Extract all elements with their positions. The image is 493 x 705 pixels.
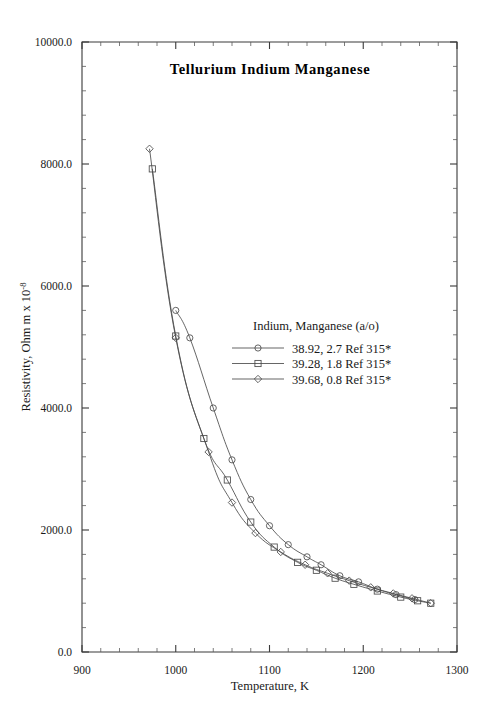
y-axis-title-exponent: -8 <box>18 283 28 290</box>
y-tick-label: 2000.0 <box>40 524 72 536</box>
x-tick-label: 1200 <box>352 664 375 676</box>
y-tick-label: 4000.0 <box>40 402 72 414</box>
chart-title: Tellurium Indium Manganese <box>170 61 370 77</box>
legend-label: 38.92, 2.7 Ref 315* <box>292 342 391 356</box>
plot-background <box>0 0 493 705</box>
y-axis-title-main: Resistivity, Ohm m x 10 <box>19 290 33 412</box>
legend-label: 39.68, 0.8 Ref 315* <box>292 373 391 387</box>
legend-heading: Indium, Manganese (a/o) <box>253 319 379 333</box>
resistivity-vs-temperature-plot: 90010001100120013000.02000.04000.06000.0… <box>0 0 493 705</box>
y-tick-label: 0.0 <box>58 646 73 658</box>
y-tick-label: 6000.0 <box>40 280 72 292</box>
x-tick-label: 1300 <box>446 664 469 676</box>
chart-figure: 90010001100120013000.02000.04000.06000.0… <box>0 0 493 705</box>
y-tick-label: 10000.0 <box>35 36 73 48</box>
y-axis-title: Resistivity, Ohm m x 10-8 <box>18 283 33 412</box>
x-tick-label: 900 <box>73 664 91 676</box>
svg-text:Resistivity, Ohm m x 10-8: Resistivity, Ohm m x 10-8 <box>18 283 33 412</box>
y-tick-label: 8000.0 <box>40 158 72 170</box>
x-tick-label: 1100 <box>258 664 281 676</box>
x-tick-label: 1000 <box>164 664 187 676</box>
legend-label: 39.28, 1.8 Ref 315* <box>292 357 391 371</box>
x-axis-title: Temperature, K <box>231 679 309 693</box>
